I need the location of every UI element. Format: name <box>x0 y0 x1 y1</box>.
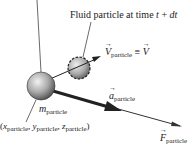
leader-line-position <box>26 100 36 122</box>
force-subscript: particle <box>166 137 187 145</box>
title-plus: + <box>159 9 170 20</box>
force-arrowhead-icon <box>171 122 182 127</box>
paren-close: ) <box>87 121 90 131</box>
acceleration-symbol: a <box>109 90 114 101</box>
leader-line-top <box>37 0 41 72</box>
velocity-subscript: particle <box>111 51 132 59</box>
force-symbol: F <box>160 132 166 143</box>
acceleration-subscript: particle <box>114 95 135 103</box>
title-dt: dt <box>170 9 178 20</box>
velocity-label: Vparticle ≡ V <box>105 46 149 61</box>
z-subscript: particle <box>66 125 87 133</box>
title-label: Fluid particle at time t + dt <box>70 9 177 20</box>
force-label: Fparticle <box>160 132 187 145</box>
position-label: (xparticle, yparticle, zparticle) <box>0 121 90 135</box>
fluid-particle-future <box>68 57 90 79</box>
velocity-symbol: V <box>105 46 111 57</box>
x-subscript: particle <box>7 125 28 133</box>
fluid-particle <box>27 72 55 100</box>
acceleration-label: aparticle <box>109 90 135 105</box>
velocity-rhs: V <box>143 46 149 57</box>
mass-subscript: particle <box>46 108 67 116</box>
leader-line-title <box>83 22 91 57</box>
velocity-arrowhead-icon <box>92 56 101 62</box>
equiv-sign: ≡ <box>132 46 143 57</box>
y-subscript: particle <box>37 125 58 133</box>
mass-label: mparticle <box>39 103 67 118</box>
title-prefix: Fluid particle at time <box>70 9 156 20</box>
